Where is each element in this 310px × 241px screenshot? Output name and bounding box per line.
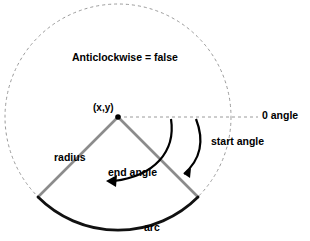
start-angle-label: start angle xyxy=(211,136,264,147)
anticlockwise-label: Anticlockwise = false xyxy=(72,52,178,63)
center-point-label: (x,y) xyxy=(93,103,114,113)
radius-label: radius xyxy=(54,152,86,163)
diagram-canvas: Anticlockwise = false (x,y) 0 angle star… xyxy=(0,0,310,241)
start-angle-arrow-curve xyxy=(184,119,200,174)
end-angle-label: end angle xyxy=(108,167,157,178)
radius-line-start xyxy=(118,117,198,197)
zero-angle-label: 0 angle xyxy=(262,110,298,121)
arc-stroke xyxy=(38,197,198,230)
arc-label: arc xyxy=(144,222,160,233)
center-point-dot xyxy=(115,114,121,120)
